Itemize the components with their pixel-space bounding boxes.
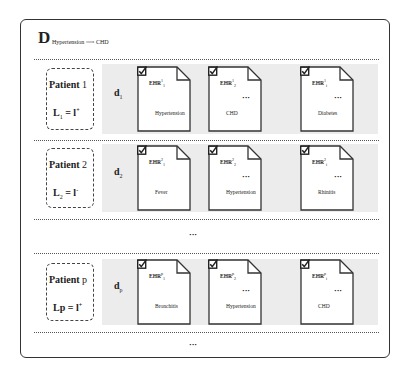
ehr-document: EHRp2 Hypertension — [208, 259, 262, 325]
bottom-ellipsis: ··· — [189, 340, 197, 349]
patient-label: Patient — [49, 79, 80, 90]
ehr-label: EHR11 — [149, 78, 165, 88]
document-set-label: dp — [114, 280, 123, 293]
patient-label-equation: L2 = l- — [53, 187, 78, 200]
ehr-document: EHR1i Diabetes — [300, 66, 354, 132]
patient-label-equation: Lp = l+ — [53, 302, 82, 315]
ehr-label: EHR2i — [312, 157, 327, 167]
ehr-document: EHRpi CHD — [300, 259, 354, 325]
ehr-label: EHR22 — [220, 157, 236, 167]
patient-number: p — [82, 274, 87, 285]
ehr-document: EHR11 Hypertension — [137, 66, 191, 132]
patient-label: Patient — [49, 159, 80, 170]
row-separator — [34, 253, 379, 254]
condition-label: Fever — [155, 189, 168, 195]
ehr-document: EHR21 Fever — [137, 145, 191, 211]
row-separator — [34, 140, 379, 141]
checkbox-checked-icon — [300, 66, 310, 76]
patient-box: Patient p Lp = l+ — [46, 263, 94, 321]
ehr-document: EHR22 Hypertension — [208, 145, 262, 211]
checkbox-checked-icon — [208, 66, 218, 76]
rows-ellipsis: ··· — [189, 230, 197, 239]
documents-ellipsis: ··· — [334, 93, 342, 102]
row-separator — [34, 219, 379, 220]
patient-row: Patient 1 L1 = l+ d1 EHR11 Hyperten — [34, 62, 379, 136]
ehr-label: EHR21 — [149, 157, 165, 167]
patient-row: Patient p Lp = l+ dp EHRp1 Bronchit — [34, 257, 379, 327]
dataset-title-subscript: Hypertension ⟶ CHD — [52, 38, 109, 45]
documents-ellipsis: ··· — [242, 172, 250, 181]
checkbox-checked-icon — [300, 145, 310, 155]
condition-label: Hypertension — [226, 303, 256, 309]
ehr-label: EHRp1 — [149, 271, 165, 281]
checkbox-checked-icon — [208, 259, 218, 269]
condition-label: Rhinitis — [318, 189, 335, 195]
checkbox-checked-icon — [208, 145, 218, 155]
patient-box: Patient 1 L1 = l+ — [46, 68, 94, 130]
ehr-label: EHR1i — [312, 78, 327, 88]
patient-number: 2 — [82, 159, 87, 170]
condition-label: Diabetes — [318, 110, 337, 116]
patient-label: Patient — [49, 274, 80, 285]
ehr-label: EHR12 — [220, 78, 236, 88]
condition-label: Hypertension — [155, 110, 185, 116]
checkbox-checked-icon — [300, 259, 310, 269]
documents-ellipsis: ··· — [242, 93, 250, 102]
ehr-document: EHR12 CHD — [208, 66, 262, 132]
documents-ellipsis: ··· — [334, 172, 342, 181]
checkbox-checked-icon — [137, 145, 147, 155]
condition-label: Hypertension — [226, 189, 256, 195]
patient-box: Patient 2 L2 = l- — [46, 148, 94, 208]
condition-label: CHD — [226, 110, 238, 116]
checkbox-checked-icon — [137, 66, 147, 76]
document-set-label: d1 — [114, 87, 123, 100]
checkbox-checked-icon — [137, 259, 147, 269]
ehr-document: EHR2i Rhinitis — [300, 145, 354, 211]
condition-label: Bronchitis — [155, 303, 178, 309]
dataset-title: D — [38, 28, 50, 48]
document-set-label: d2 — [114, 166, 123, 179]
ehr-label: EHRpi — [312, 271, 327, 281]
documents-ellipsis: ··· — [242, 286, 250, 295]
condition-label: CHD — [318, 303, 330, 309]
documents-ellipsis: ··· — [334, 286, 342, 295]
row-separator — [34, 332, 379, 333]
row-separator — [34, 59, 379, 60]
ehr-label: EHRp2 — [220, 271, 236, 281]
patient-number: 1 — [82, 79, 87, 90]
ehr-document: EHRp1 Bronchitis — [137, 259, 191, 325]
patient-label-equation: L1 = l+ — [53, 107, 80, 120]
patient-row: Patient 2 L2 = l- d2 EHR21 Fever — [34, 142, 379, 214]
